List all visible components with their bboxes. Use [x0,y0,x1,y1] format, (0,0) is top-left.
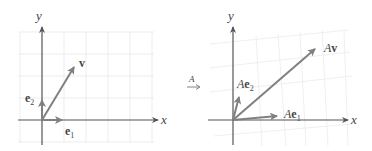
vector-Ae2-label: Ae2 [236,77,254,93]
left-x-label: x [160,112,167,127]
right-x-label: x [350,112,357,127]
vector-e2-label: e2 [25,91,34,107]
vector-v-arrow [42,67,74,120]
transform-label: A [188,74,195,84]
left-panel: y x v e2 e1 [18,8,167,145]
linear-transformation-diagram: y x v e2 e1 A y x Av Ae2 Ae1 [0,0,372,151]
vector-v-label: v [79,56,85,70]
transform-arrow: A [187,74,200,90]
left-grid [18,32,154,143]
right-panel: y x Av Ae2 Ae1 [208,8,357,146]
vector-Ae1-label: Ae1 [283,107,301,123]
vector-Av-label: Av [323,41,337,55]
left-y-label: y [34,8,42,23]
right-y-label: y [226,8,234,23]
vector-e1-label: e1 [65,124,74,140]
